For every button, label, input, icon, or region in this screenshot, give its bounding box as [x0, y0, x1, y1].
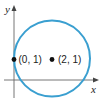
point-label-0-1: (0, 1) [19, 54, 42, 65]
x-axis-label: x [90, 83, 96, 95]
coordinate-plane: (0, 1) (2, 1) y x [0, 0, 101, 101]
y-axis-arrow-icon [12, 5, 17, 11]
point-2-1 [50, 57, 55, 62]
y-axis-label: y [4, 3, 10, 15]
point-0-1 [12, 57, 17, 62]
x-axis-arrow-icon [93, 78, 99, 83]
point-label-2-1: (2, 1) [58, 54, 81, 65]
